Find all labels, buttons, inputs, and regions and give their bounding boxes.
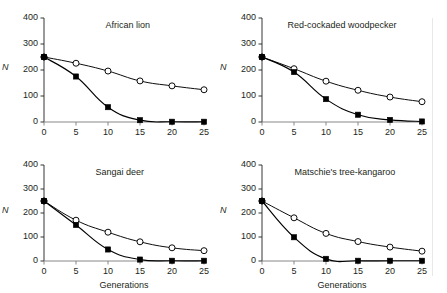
x-axis-tick-label: 0 <box>255 266 269 276</box>
y-axis-tick-label: 200 <box>234 207 256 217</box>
x-axis-title: Generations <box>318 280 367 290</box>
y-axis-title: N <box>220 205 227 215</box>
x-axis-tick-label: 20 <box>383 266 397 276</box>
y-axis-tick-label: 300 <box>234 183 256 193</box>
data-point-origin-marker <box>259 198 266 205</box>
y-axis-tick-label: 100 <box>234 231 256 241</box>
data-point-open-circle <box>291 215 297 221</box>
y-axis-tick-label: 0 <box>234 255 256 265</box>
series-line-open-circle <box>262 201 422 251</box>
data-point-open-circle <box>355 239 361 245</box>
x-axis-tick-label: 10 <box>319 266 333 276</box>
x-axis-tick-label: 25 <box>415 266 429 276</box>
data-point-filled-square <box>387 258 392 263</box>
data-point-open-circle <box>323 230 329 236</box>
x-axis-tick-label: 15 <box>351 266 365 276</box>
data-point-filled-square <box>291 235 296 240</box>
data-point-open-circle <box>419 248 425 254</box>
data-point-filled-square <box>419 258 424 263</box>
x-axis-tick-label: 5 <box>287 266 301 276</box>
y-axis-tick-label: 400 <box>234 159 256 169</box>
data-point-open-circle <box>387 244 393 250</box>
figure-panel-grid: African lion40030020010000510152025NRed-… <box>0 0 447 293</box>
data-point-filled-square <box>323 256 328 261</box>
series-line-filled-square <box>262 201 422 262</box>
data-point-filled-square <box>355 258 360 263</box>
chart-title: Matschie's tree-kangaroo <box>295 167 396 177</box>
chart-plot-area <box>0 0 447 293</box>
